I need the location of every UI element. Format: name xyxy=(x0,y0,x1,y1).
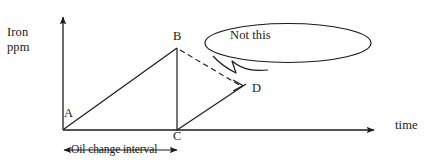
diagram-canvas xyxy=(0,0,446,168)
segment-a-to-b xyxy=(64,48,177,129)
point-label-a: A xyxy=(64,106,73,121)
y-axis-label: Ironppm xyxy=(7,25,30,55)
point-label-b: B xyxy=(173,29,181,44)
oil-change-interval-label: Oil change interval xyxy=(71,143,157,157)
iron-ppm-vs-time-diagram: Ironppm time A B C D Not this Oil change… xyxy=(0,0,446,168)
y-axis-label-line2: ppm xyxy=(7,40,30,54)
callout-text: Not this xyxy=(230,28,271,43)
point-label-c: C xyxy=(173,129,181,144)
segment-c-to-d xyxy=(177,84,246,130)
x-axis-label: time xyxy=(395,118,418,133)
y-axis-label-line1: Iron xyxy=(7,25,28,39)
point-label-d: D xyxy=(252,81,261,96)
